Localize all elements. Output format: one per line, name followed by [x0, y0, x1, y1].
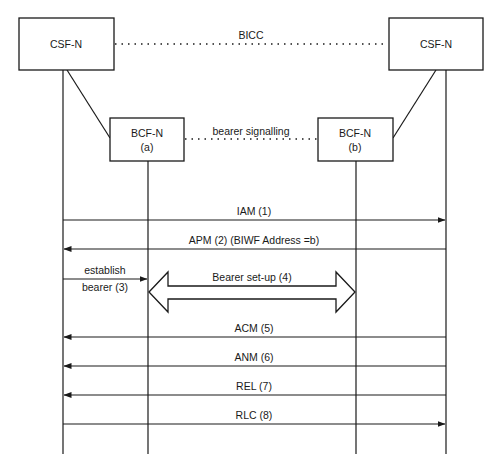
entity-bcf-n-b: BCF-N (b) — [318, 118, 393, 161]
bicc-label: BICC — [238, 29, 264, 41]
message-rlc: RLC (8) — [63, 409, 445, 424]
entity-csf-n-b: CSF-N — [389, 18, 483, 70]
svg-text:IAM (1): IAM (1) — [237, 205, 271, 217]
svg-text:bearer (3): bearer (3) — [82, 281, 128, 293]
entity-bcf-n-a: BCF-N (a) — [110, 118, 184, 161]
entity-label: CSF-N — [420, 38, 452, 50]
entity-label: CSF-N — [50, 38, 82, 50]
message-rel: REL (7) — [64, 380, 446, 395]
message-iam: IAM (1) — [63, 205, 445, 220]
message-apm: APM (2) (BIWF Address =b) — [64, 234, 446, 249]
sequence-diagram: BICC bearer signalling CSF-N CSF-N BCF-N… — [0, 0, 498, 471]
message-acm: ACM (5) — [64, 322, 446, 337]
svg-text:establish: establish — [84, 264, 126, 276]
entity-sublabel: (a) — [141, 141, 154, 153]
svg-text:APM (2) (BIWF Address =b): APM (2) (BIWF Address =b) — [189, 234, 319, 246]
entity-label: BCF-N — [339, 127, 371, 139]
entity-csf-n-a: CSF-N — [19, 18, 114, 70]
connector-csf-bcf-b — [393, 70, 436, 138]
message-anm: ANM (6) — [64, 351, 446, 366]
svg-text:RLC (8): RLC (8) — [236, 409, 273, 421]
svg-text:ACM (5): ACM (5) — [234, 322, 273, 334]
entity-sublabel: (b) — [349, 141, 362, 153]
svg-text:ANM (6): ANM (6) — [234, 351, 273, 363]
bearer-signalling-label: bearer signalling — [212, 125, 289, 137]
connector-csf-bcf-a — [67, 70, 110, 138]
message-establish-bearer: establish bearer (3) — [63, 264, 147, 293]
message-bearer-setup: Bearer set-up (4) — [149, 271, 355, 312]
entity-label: BCF-N — [131, 127, 163, 139]
svg-text:REL (7): REL (7) — [236, 380, 272, 392]
svg-text:Bearer set-up (4): Bearer set-up (4) — [212, 271, 291, 283]
